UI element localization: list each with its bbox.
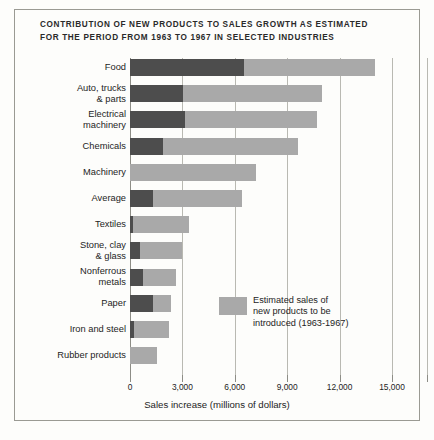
bar-segment-new-products <box>244 59 375 76</box>
category-label: Stone, clay & glass <box>8 240 126 262</box>
legend-label-line-1: Estimated sales of <box>253 295 385 306</box>
chart-title-line-2: FOR THE PERIOD FROM 1963 TO 1967 IN SELE… <box>40 32 380 45</box>
category-label: Food <box>8 62 126 73</box>
category-label: Auto, trucks & parts <box>8 83 126 105</box>
x-tick <box>392 375 393 382</box>
legend-label-line-2: new products to be <box>253 306 385 317</box>
bar-segment-existing-sales <box>130 138 163 155</box>
category-axis: FoodAuto, trucks & partsElectrical machi… <box>0 58 126 375</box>
bar-row[interactable] <box>130 85 392 102</box>
bar-segment-new-products <box>130 164 256 181</box>
bar-segment-new-products <box>140 242 182 259</box>
chart-figure: CONTRIBUTION OF NEW PRODUCTS TO SALES GR… <box>0 0 434 440</box>
x-tick-label: 6,000 <box>224 382 245 392</box>
gridline-15000 <box>392 58 393 375</box>
bar-row[interactable] <box>130 216 392 233</box>
bar-segment-existing-sales <box>130 242 140 259</box>
bar-segment-new-products <box>130 347 157 364</box>
bar-segment-new-products <box>143 269 176 286</box>
legend-label-line-3: introduced (1963-1967) <box>253 318 385 329</box>
bar-segment-existing-sales <box>130 269 143 286</box>
legend-label-new-products: Estimated sales of new products to be in… <box>253 295 385 329</box>
x-axis-tick-labels: 03,0006,0009,00012,00015,000 <box>0 382 434 396</box>
bar-row[interactable] <box>130 164 392 181</box>
x-tick-label: 9,000 <box>277 382 298 392</box>
x-tick <box>130 375 131 382</box>
category-label: Average <box>8 193 126 204</box>
chart-title-line-1: CONTRIBUTION OF NEW PRODUCTS TO SALES GR… <box>40 19 380 32</box>
bar-segment-existing-sales <box>130 85 183 102</box>
bar-segment-new-products <box>133 216 190 233</box>
x-axis-title: Sales increase (millions of dollars) <box>0 399 434 410</box>
x-tick-label: 15,000 <box>379 382 405 392</box>
category-label: Rubber products <box>8 350 126 361</box>
chart-title: CONTRIBUTION OF NEW PRODUCTS TO SALES GR… <box>40 19 380 44</box>
x-tick <box>182 375 183 382</box>
bar-row[interactable] <box>130 269 392 286</box>
x-tick <box>287 375 288 382</box>
bar-row[interactable] <box>130 190 392 207</box>
category-label: Paper <box>8 298 126 309</box>
legend-swatch-new-products <box>219 297 247 315</box>
bar-segment-new-products <box>185 111 317 128</box>
bar-row[interactable] <box>130 111 392 128</box>
bar-segment-existing-sales <box>130 59 244 76</box>
bar-segment-new-products <box>183 85 322 102</box>
bar-segment-existing-sales <box>130 190 153 207</box>
bar-row[interactable] <box>130 138 392 155</box>
bar-segment-new-products <box>153 190 242 207</box>
category-label: Nonferrous metals <box>8 266 126 288</box>
bar-segment-existing-sales <box>130 111 185 128</box>
bar-row[interactable] <box>130 59 392 76</box>
bar-segment-existing-sales <box>130 295 153 312</box>
category-label: Electrical machinery <box>8 109 126 131</box>
category-label: Iron and steel <box>8 324 126 335</box>
bar-row[interactable] <box>130 347 392 364</box>
bar-row[interactable] <box>130 242 392 259</box>
category-label: Machinery <box>8 167 126 178</box>
gridline-plot-right-edge <box>427 58 428 375</box>
x-tick-label: 3,000 <box>172 382 193 392</box>
x-tick-label: 12,000 <box>327 382 353 392</box>
category-label: Chemicals <box>8 141 126 152</box>
x-tick <box>235 375 236 382</box>
bar-segment-new-products <box>134 321 169 338</box>
x-tick <box>340 375 341 382</box>
category-label: Textiles <box>8 219 126 230</box>
bar-segment-new-products <box>153 295 171 312</box>
bar-segment-new-products <box>163 138 297 155</box>
x-tick-label: 0 <box>128 382 133 392</box>
x-tick-edge <box>427 375 428 382</box>
